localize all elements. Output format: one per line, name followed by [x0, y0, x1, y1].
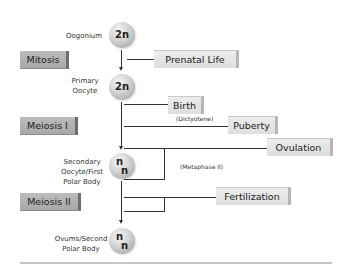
connector-line: [121, 181, 122, 221]
bracket-bottom-lower: [124, 211, 165, 212]
connector-prenatal: [127, 59, 154, 60]
stage-label-primary-oocyte: Primary Oocyte: [58, 76, 112, 96]
connector-fertilization: [124, 197, 216, 198]
event-label: Puberty: [233, 120, 270, 131]
bracket-bottom: [124, 179, 165, 180]
connector-birth: [124, 104, 168, 105]
event-prenatal-life: Prenatal Life: [154, 50, 239, 68]
cell-oogonium: 2n: [109, 22, 135, 48]
event-puberty: Puberty: [228, 116, 278, 134]
cell-primary-oocyte: 2n: [109, 74, 135, 100]
ploidy-label: 2n: [109, 81, 135, 92]
phase-mitosis: Mitosis: [20, 51, 69, 69]
label-line: Oocyte/First: [52, 167, 112, 177]
label-line: Polar Body: [52, 177, 112, 187]
arrow-down-icon: [119, 220, 123, 224]
phase-meiosis-2: Meiosis II: [20, 193, 81, 211]
label-line: Oogonium: [66, 32, 102, 40]
phase-label: Mitosis: [27, 54, 60, 65]
arrow-down-icon: [119, 146, 123, 150]
connector-line: [121, 102, 122, 146]
stage-label-ovum: Ovums/Second Polar Body: [50, 234, 112, 254]
label-line: Oocyte: [58, 86, 112, 96]
label-line: Primary: [58, 76, 112, 86]
bracket-vertical: [164, 148, 165, 180]
event-fertilization: Fertilization: [216, 187, 291, 205]
note-metaphase-2: (Metaphase II): [180, 163, 223, 170]
label-line: Ovums/Second: [50, 234, 112, 244]
cell-secondary-oocyte: n n: [109, 153, 135, 179]
event-birth: Birth: [168, 96, 204, 114]
event-label: Fertilization: [224, 191, 279, 202]
bottom-rule: [20, 262, 332, 264]
ploidy-label: 2n: [109, 29, 135, 40]
connector-line: [121, 50, 122, 68]
event-label: Ovulation: [276, 142, 322, 153]
event-label: Prenatal Life: [165, 54, 224, 65]
event-label: Birth: [173, 100, 196, 111]
label-line: Secondary: [52, 157, 112, 167]
cell-ovum: n n: [109, 228, 135, 254]
connector-puberty: [124, 126, 228, 127]
stage-label-secondary-oocyte: Secondary Oocyte/First Polar Body: [52, 157, 112, 187]
label-line: Polar Body: [50, 244, 112, 254]
ploidy-label: n: [121, 240, 128, 251]
note-dictyotene: (Dictyotene): [176, 115, 213, 122]
phase-meiosis-1: Meiosis I: [20, 117, 78, 135]
arrow-down-icon: [119, 67, 123, 71]
bracket-vertical-lower: [164, 197, 165, 212]
phase-label: Meiosis II: [27, 196, 71, 207]
phase-label: Meiosis I: [27, 120, 68, 131]
connector-ovulation: [124, 148, 267, 149]
ploidy-label: n: [121, 165, 128, 176]
event-ovulation: Ovulation: [267, 138, 333, 156]
stage-label-oogonium: Oogonium: [56, 31, 112, 41]
